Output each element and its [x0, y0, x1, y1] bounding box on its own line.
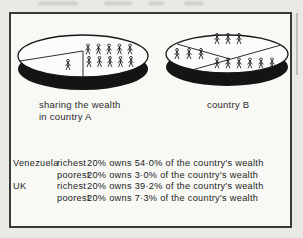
- caption-country-b: country B: [207, 99, 249, 111]
- scanned-figure-page: sharing the wealth in country A country …: [0, 0, 303, 238]
- scan-artifact: [104, 2, 132, 5]
- table-row: poorest 20% owns 3·0% of the country's w…: [13, 170, 289, 182]
- group-label: poorest: [57, 170, 87, 182]
- share-detail: 20% owns 3·0% of the country's wealth: [87, 170, 258, 182]
- scan-artifact: [149, 2, 164, 5]
- country-label: [13, 170, 57, 182]
- table-row: poorest 20% owns 7·3% of the country's w…: [13, 193, 289, 205]
- caption-country-a: sharing the wealth in country A: [39, 99, 121, 122]
- caption-country-a-line1: sharing the wealth: [39, 99, 121, 111]
- table-row: UK richest 20% owns 39·2% of the country…: [13, 181, 289, 193]
- group-label: poorest: [57, 193, 87, 205]
- table-row: Venezuela richest 20% owns 54·0% of the …: [13, 158, 289, 170]
- caption-country-b-text: country B: [207, 99, 249, 111]
- country-label: Venezuela: [13, 158, 57, 170]
- caption-country-a-line2: in country A: [39, 111, 121, 123]
- share-detail: 20% owns 39·2% of the country's wealth: [87, 181, 264, 193]
- pie-chart-country-b: [165, 28, 289, 88]
- scan-artifact: [38, 2, 78, 5]
- group-label: richest: [57, 181, 87, 193]
- country-label: [13, 193, 57, 205]
- group-label: richest: [57, 158, 87, 170]
- country-label: UK: [13, 181, 57, 193]
- scan-artifact: [184, 2, 203, 5]
- scan-artifact-line: [296, 13, 298, 75]
- share-detail: 20% owns 7·3% of the country's wealth: [87, 193, 258, 205]
- share-detail: 20% owns 54·0% of the country's wealth: [87, 158, 264, 170]
- pie-chart-country-a: [16, 30, 150, 92]
- wealth-statistics-table: Venezuela richest 20% owns 54·0% of the …: [13, 158, 289, 204]
